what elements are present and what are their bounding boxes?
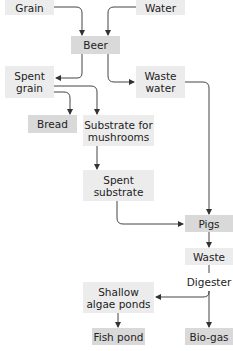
- node-digester: Digester: [183, 274, 233, 290]
- node-grain: Grain: [5, 0, 54, 15]
- node-label: Digester: [187, 276, 232, 288]
- node-waste: Waste: [185, 248, 233, 265]
- node-bread: Bread: [28, 115, 77, 133]
- node-label: Spent substrate: [91, 174, 147, 198]
- node-label: Pigs: [198, 218, 219, 230]
- node-spent-substrate: Spent substrate: [83, 170, 154, 201]
- node-label: Waste: [193, 251, 225, 263]
- node-label: Substrate for mushrooms: [84, 119, 154, 143]
- node-pigs: Pigs: [185, 215, 233, 232]
- node-algae-ponds: Shallow algae ponds: [83, 282, 154, 313]
- node-substrate: Substrate for mushrooms: [83, 115, 154, 146]
- node-water: Water: [136, 0, 185, 15]
- node-label: Bread: [37, 118, 68, 130]
- node-label: Bio-gas: [189, 331, 228, 343]
- node-label: Beer: [83, 39, 107, 51]
- node-label: Waste water: [141, 70, 181, 94]
- node-fish-pond: Fish pond: [92, 328, 145, 345]
- node-biogas: Bio-gas: [185, 328, 233, 345]
- node-beer: Beer: [71, 36, 120, 54]
- node-label: Grain: [15, 2, 43, 14]
- node-label: Shallow algae ponds: [84, 286, 154, 310]
- node-label: Fish pond: [93, 331, 143, 343]
- node-waste-water: Waste water: [136, 66, 185, 98]
- node-label: Spent grain: [10, 70, 50, 94]
- node-spent-grain: Spent grain: [5, 66, 54, 98]
- node-label: Water: [145, 2, 176, 14]
